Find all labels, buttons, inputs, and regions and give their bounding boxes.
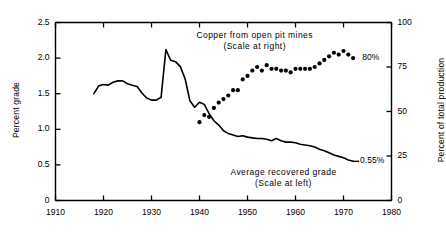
- data-point: [245, 74, 249, 78]
- open-pit-annotation-line2: (Scale at right): [180, 41, 330, 52]
- data-point: [332, 51, 336, 55]
- open-pit-end-value-label: 80%: [362, 52, 379, 62]
- tick-label: 1950: [228, 207, 268, 217]
- tick-label: 1970: [324, 207, 364, 217]
- average-grade-annotation-line1: Average recovered grade: [214, 167, 354, 178]
- tick-label: 100: [398, 17, 428, 27]
- average-grade-end-value-label: 0.55%: [360, 155, 384, 165]
- data-point: [341, 49, 345, 53]
- data-point: [322, 58, 326, 62]
- data-point: [351, 56, 355, 60]
- data-point: [303, 67, 307, 71]
- data-point: [226, 93, 230, 97]
- tick-label: 1.5: [20, 88, 50, 98]
- tick-label: 1980: [372, 207, 412, 217]
- data-point: [221, 97, 225, 101]
- data-point: [337, 52, 341, 56]
- data-point: [197, 120, 201, 124]
- data-point: [274, 67, 278, 71]
- data-point: [289, 70, 293, 74]
- average-grade-annotation: Average recovered grade (Scale at left): [214, 167, 354, 189]
- data-point: [265, 63, 269, 67]
- data-point: [298, 67, 302, 71]
- data-point: [260, 68, 264, 72]
- data-point: [231, 88, 235, 92]
- tick-label: 1960: [276, 207, 316, 217]
- tick-label: 25: [398, 150, 428, 160]
- tick-label: 1930: [132, 207, 172, 217]
- tick-label: 50: [398, 106, 428, 116]
- y-axis-right-title: Percent of total production: [436, 40, 446, 180]
- data-point: [250, 68, 254, 72]
- y-axis-left-title: Percent grade: [11, 60, 21, 160]
- data-point: [255, 65, 259, 69]
- data-point: [317, 61, 321, 65]
- tick-label: 75: [398, 61, 428, 71]
- tick-label: 2.5: [20, 17, 50, 27]
- average-grade-annotation-line2: (Scale at left): [214, 178, 354, 189]
- data-point: [308, 67, 312, 71]
- tick-label: 0.5: [20, 159, 50, 169]
- tick-label: 1.0: [20, 123, 50, 133]
- data-point: [313, 65, 317, 69]
- data-point: [207, 115, 211, 119]
- open-pit-annotation: Copper from open pit mines (Scale at rig…: [180, 30, 330, 52]
- data-point: [327, 54, 331, 58]
- open-pit-mines-dots: [197, 49, 355, 124]
- tick-label: 0: [20, 195, 50, 205]
- open-pit-annotation-line1: Copper from open pit mines: [180, 30, 330, 41]
- tick-label: 1910: [36, 207, 76, 217]
- tick-label: 0: [398, 195, 428, 205]
- data-point: [241, 77, 245, 81]
- data-point: [202, 113, 206, 117]
- data-point: [279, 68, 283, 72]
- data-point: [236, 88, 240, 92]
- data-point: [293, 67, 297, 71]
- data-point: [217, 101, 221, 105]
- tick-label: 1920: [84, 207, 124, 217]
- data-point: [212, 106, 216, 110]
- data-point: [284, 68, 288, 72]
- data-point: [269, 67, 273, 71]
- data-point: [346, 52, 350, 56]
- tick-label: 2.0: [20, 52, 50, 62]
- tick-label: 1940: [180, 207, 220, 217]
